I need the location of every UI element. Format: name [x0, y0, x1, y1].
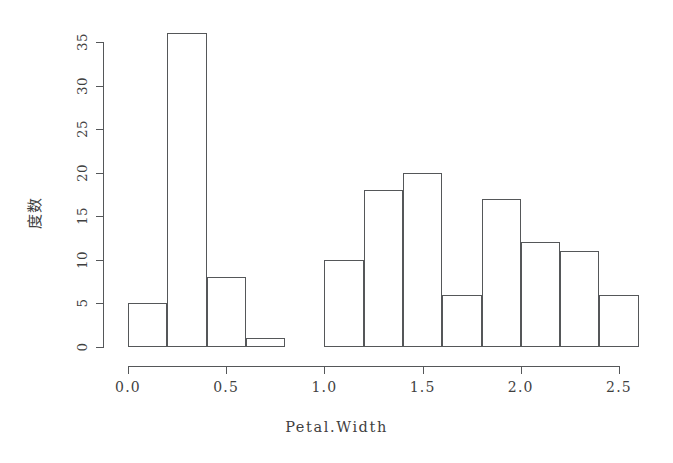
- histogram-bar: [128, 303, 167, 347]
- histogram-bar: [324, 260, 363, 347]
- histogram-bar: [482, 199, 521, 347]
- histogram-plot: 05101520253035 0.00.51.01.52.02.5 度数 Pet…: [0, 0, 673, 463]
- histogram-bar: [207, 277, 246, 347]
- histogram-bar: [364, 190, 403, 347]
- x-axis-title: Petal.Width: [0, 419, 673, 435]
- histogram-bar: [403, 173, 442, 347]
- histogram-bar: [599, 295, 638, 347]
- y-axis-title: 度数: [16, 182, 50, 242]
- histogram-bars: [0, 0, 673, 463]
- histogram-bar: [246, 338, 285, 347]
- histogram-bar: [167, 33, 206, 347]
- histogram-bar: [560, 251, 599, 347]
- histogram-bar: [442, 295, 481, 347]
- histogram-bar: [521, 242, 560, 347]
- y-axis-title-text: 度数: [23, 196, 44, 228]
